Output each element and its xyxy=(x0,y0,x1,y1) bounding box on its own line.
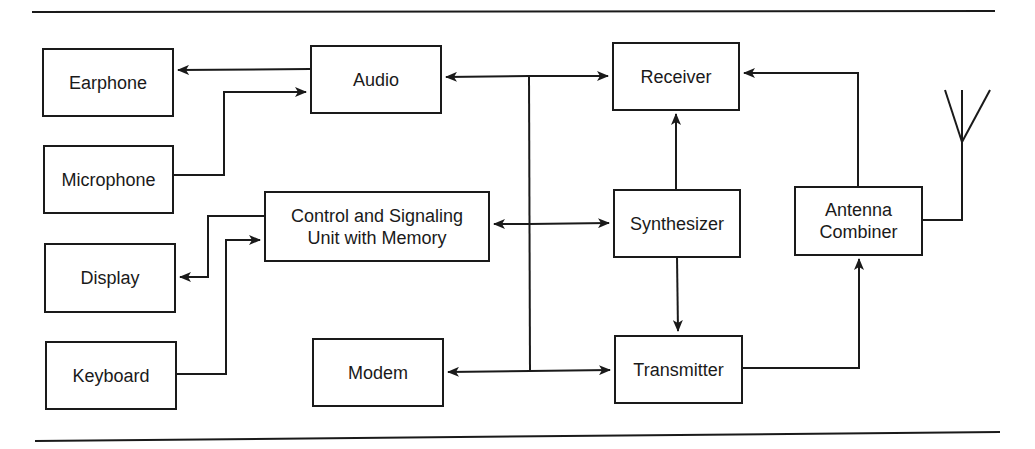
block-label: Keyboard xyxy=(72,365,149,387)
block-display: Display xyxy=(44,243,176,313)
arrow-bus-to-synthesizer xyxy=(529,223,609,224)
block-label: Audio xyxy=(353,69,399,91)
arrow-microphone-to-audio xyxy=(173,92,306,175)
arrow-control-to-display xyxy=(180,216,264,277)
arrow-bus-to-audio xyxy=(446,76,529,77)
arrow-synthesizer-to-transmitter xyxy=(677,257,678,331)
block-label: Control and Signaling Unit with Memory xyxy=(291,205,463,249)
block-microphone: Microphone xyxy=(43,145,174,214)
block-receiver: Receiver xyxy=(612,42,740,111)
block-synthesizer: Synthesizer xyxy=(613,189,741,258)
block-audio: Audio xyxy=(310,45,442,114)
block-label: Microphone xyxy=(61,169,155,191)
arrow-audio-to-earphone xyxy=(178,69,310,70)
arrow-keyboard-to-control xyxy=(176,240,260,374)
arrow-bus-to-modem xyxy=(448,371,530,372)
block-label: Transmitter xyxy=(633,359,723,381)
block-label: Earphone xyxy=(69,72,147,94)
block-label: Antenna Combiner xyxy=(819,199,897,243)
block-label: Receiver xyxy=(640,66,711,88)
bottom-rule xyxy=(35,432,1000,441)
block-label: Synthesizer xyxy=(630,213,724,235)
arrow-transmitter-to-combiner xyxy=(742,259,859,368)
antenna-feed-line xyxy=(922,142,962,220)
block-label: Modem xyxy=(348,362,408,384)
arrow-bus-to-transmitter xyxy=(530,370,610,371)
antenna-icon xyxy=(945,90,990,142)
block-control-signaling-unit: Control and Signaling Unit with Memory xyxy=(264,191,490,262)
block-modem: Modem xyxy=(312,338,444,407)
block-transmitter: Transmitter xyxy=(614,335,743,404)
block-label: Display xyxy=(80,267,139,289)
arrow-combiner-to-receiver xyxy=(744,73,858,186)
block-earphone: Earphone xyxy=(42,48,174,117)
block-keyboard: Keyboard xyxy=(45,341,177,410)
top-rule xyxy=(32,11,995,12)
block-antenna-combiner: Antenna Combiner xyxy=(794,186,923,256)
